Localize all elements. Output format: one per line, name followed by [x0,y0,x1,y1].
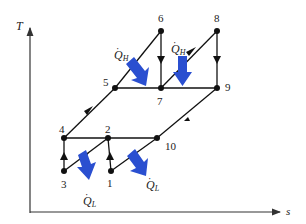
heat-arrow-ql-left [77,150,96,180]
state-point-5 [112,85,118,91]
flow-arrow-8-9 [213,56,221,64]
flow-arrow-1-2 [106,152,114,160]
state-point-3 [61,168,67,174]
heat-arrow-ql-right [127,149,148,176]
heat-arrow-qh-right [173,56,192,86]
state-label-5: 5 [103,77,109,88]
heat-label-qh-right: ·QH [171,43,185,57]
state-point-6 [158,28,164,34]
state-label-1: 1 [107,178,113,189]
line-7-8 [161,31,217,88]
state-label-3: 3 [61,179,67,190]
state-label-7: 7 [157,96,163,107]
state-point-8 [214,28,220,34]
heat-label-qh-left: ·QH [114,49,128,63]
state-point-1 [108,168,114,174]
t-axis-label: T [16,20,23,32]
state-point-7 [158,85,164,91]
state-label-9: 9 [225,82,231,93]
state-point-9 [214,85,220,91]
state-point-10 [154,135,160,141]
flow-arrow-3-4 [60,152,68,160]
state-label-2: 2 [105,124,111,135]
state-point-4 [61,135,67,141]
heat-arrow-qh-left [126,57,149,86]
s-axis-label: s [286,206,290,217]
state-label-6: 6 [158,13,164,24]
heat-label-ql-right: ·QL [146,179,159,193]
state-label-8: 8 [214,13,220,24]
line-9-10 [157,88,217,138]
state-label-4: 4 [59,124,65,135]
heat-label-ql-left: ·QL [83,195,96,209]
state-label-10: 10 [165,141,176,152]
flow-arrow-6-7 [157,56,165,64]
state-point-2 [105,135,111,141]
